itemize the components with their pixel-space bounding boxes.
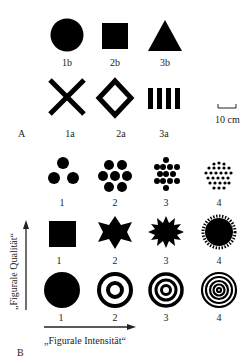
label-1a: 1a [58,129,82,139]
star-4-serrated [203,216,235,248]
label-rings-1: 1 [49,313,73,323]
star-1-square [49,221,76,247]
label-3b: 3b [153,58,177,68]
label-dots-4: 4 [207,198,231,208]
scale-bar-label: 10 cm [215,115,240,125]
label-1b: 1b [55,58,79,68]
rings-3 [150,274,182,306]
dots-1 [48,157,79,184]
y-axis-arrowhead [23,220,29,229]
label-dots-2: 2 [103,198,127,208]
panel-b-letter: B [17,348,24,358]
dots-2 [98,160,132,192]
label-star-1: 1 [47,256,71,266]
x-axis-label: „Figurale Intensität“ [44,336,126,346]
label-dots-3: 3 [154,198,178,208]
shape-1a-x [50,80,84,114]
label-rings-3: 3 [154,313,178,323]
label-star-3: 3 [154,256,178,266]
panel-a-letter: A [18,129,25,139]
star-2-octagram [98,216,132,249]
y-axis-label: „Figurale Qualität“ [9,233,19,310]
rings-4 [202,273,236,307]
label-rings-4: 4 [207,313,231,323]
dots-3 [154,157,180,191]
shape-3b-triangle [148,20,182,51]
dots-4 [204,161,232,189]
label-dots-1: 1 [50,198,74,208]
label-star-4: 4 [207,256,231,266]
label-3a: 3a [152,129,176,139]
x-axis-arrowhead [127,324,136,330]
shape-1b-circle [51,19,84,52]
scale-bar [218,104,236,108]
label-rings-2: 2 [103,313,127,323]
shape-2a-diamond [99,81,131,115]
rings-2 [99,274,131,306]
star-3-16point [148,216,184,248]
label-2b: 2b [103,58,127,68]
figure-graphics [0,0,251,363]
rings-1 [44,272,80,308]
shape-3a-bars [148,88,180,109]
label-star-2: 2 [103,256,127,266]
shape-2b-square [102,23,128,49]
label-2a: 2a [109,129,133,139]
